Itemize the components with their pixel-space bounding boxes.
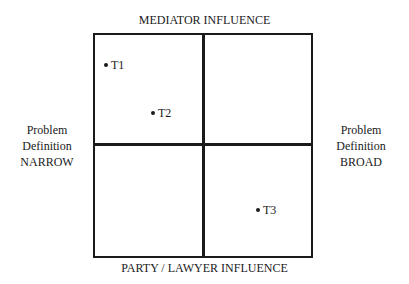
point-marker <box>104 63 108 67</box>
axis-label-problem-definition-broad: Problem Definition BROAD <box>316 122 406 170</box>
point-t3: T3 <box>256 203 276 217</box>
left-label-line-1: Problem <box>2 122 92 138</box>
right-label-line-1: Problem <box>316 122 406 138</box>
axis-label-problem-definition-narrow: Problem Definition NARROW <box>2 122 92 170</box>
left-label-line-3: NARROW <box>2 154 92 170</box>
point-marker <box>151 111 155 115</box>
point-t1: T1 <box>104 58 124 72</box>
right-label-line-2: Definition <box>316 138 406 154</box>
point-marker <box>256 208 260 212</box>
horizontal-axis-divider <box>93 143 313 146</box>
point-label: T2 <box>158 106 171 120</box>
point-t2: T2 <box>151 106 171 120</box>
axis-label-party-lawyer-influence: PARTY / LAWYER INFLUENCE <box>0 261 409 275</box>
right-label-line-3: BROAD <box>316 154 406 170</box>
point-label: T1 <box>111 58 124 72</box>
point-label: T3 <box>263 203 276 217</box>
axis-label-mediator-influence: MEDIATOR INFLUENCE <box>0 13 409 27</box>
left-label-line-2: Definition <box>2 138 92 154</box>
